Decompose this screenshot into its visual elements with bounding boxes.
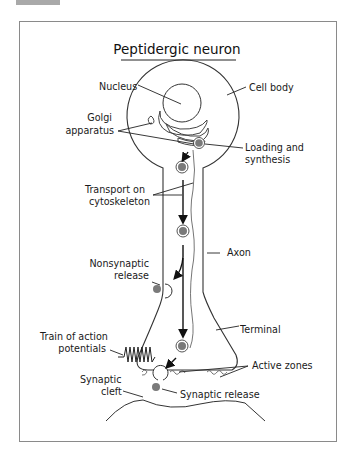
label-terminal: Terminal: [239, 324, 281, 335]
label-active-zones: Active zones: [252, 360, 313, 371]
label-loading-1: Loading and: [245, 142, 304, 153]
label-loading-2: synthesis: [245, 154, 290, 165]
action-potential-train: [118, 347, 155, 362]
label-cleft-1: Synaptic: [80, 374, 122, 385]
label-axon: Axon: [227, 247, 251, 258]
label-cell-body: Cell body: [249, 82, 294, 93]
diagram-title: Peptidergic neuron: [113, 41, 240, 57]
label-cleft-2: cleft: [101, 386, 122, 397]
label-transport-2: cytoskeleton: [89, 196, 150, 207]
vesicle-transport-2: [177, 225, 189, 237]
vesicle-transport-1: [176, 161, 188, 173]
vesicle-loading: [194, 138, 205, 149]
neuron-diagram: Peptidergic neuron: [0, 0, 352, 461]
label-train-1: Train of action: [39, 331, 108, 342]
label-nucleus: Nucleus: [99, 81, 137, 92]
label-transport-1: Transport on: [84, 184, 145, 195]
synaptic-release-vesicle: [152, 365, 168, 391]
transport-arrows: [167, 152, 188, 367]
postsynaptic-membrane: [106, 400, 265, 421]
label-golgi-1: Golgi: [87, 112, 112, 123]
label-synaptic-release: Synaptic release: [180, 389, 260, 400]
label-nonsynaptic-2: release: [114, 270, 149, 281]
label-nonsynaptic-1: Nonsynaptic: [89, 258, 149, 269]
label-train-2: potentials: [58, 343, 106, 354]
label-golgi-2: apparatus: [65, 125, 114, 136]
cytoskeleton: [190, 150, 195, 348]
vesicle-terminal: [176, 340, 188, 352]
nucleus: [163, 84, 201, 122]
